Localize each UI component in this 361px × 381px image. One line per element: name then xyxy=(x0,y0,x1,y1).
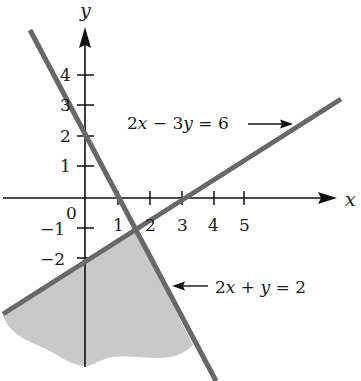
annotation-2x-minus-3y-eq-6: 2x − 3y = 6 xyxy=(127,113,293,133)
x-axis-label: x xyxy=(345,188,356,210)
annotation-2x-plus-y-eq-2: 2x + y = 2 xyxy=(172,277,306,297)
svg-text:2x − 3y = 6: 2x − 3y = 6 xyxy=(127,113,229,133)
x-tick-label: 2 xyxy=(145,215,156,235)
x-tick-label: 1 xyxy=(113,215,124,235)
y-axis-label: y xyxy=(79,0,91,21)
svg-text:2x + y = 2: 2x + y = 2 xyxy=(215,277,306,297)
y-tick-label: −1 xyxy=(40,219,65,239)
y-tick-label: 1 xyxy=(60,156,71,176)
y-tick-label: 4 xyxy=(60,65,71,85)
x-tick-label: 4 xyxy=(208,215,219,235)
origin-label: 0 xyxy=(66,203,77,223)
y-tick-label: −2 xyxy=(40,249,65,269)
x-tick-label: 3 xyxy=(177,215,188,235)
y-tick-label: 3 xyxy=(60,95,71,115)
inequality-graph: y x 0 1 2 3 4 5 4 3 2 1 −1 −2 2x − 3y = … xyxy=(0,0,361,381)
x-tick-label: 5 xyxy=(239,215,250,235)
x-axis xyxy=(3,191,337,205)
y-axis-arrowhead-icon xyxy=(79,27,91,48)
y-tick-label: 2 xyxy=(60,126,71,146)
